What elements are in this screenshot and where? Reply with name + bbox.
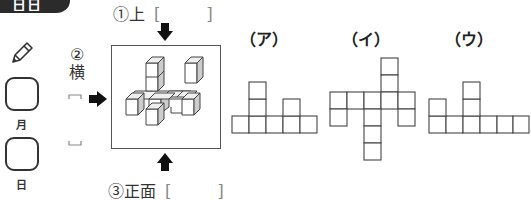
arrow-down-icon <box>157 23 173 41</box>
question-top-view: ①上 [ ] <box>113 1 213 25</box>
section-header-tab: 日日 <box>0 0 70 13</box>
day-label: 日 <box>16 176 27 192</box>
question-front-view: ③正面 [ ] <box>108 178 224 200</box>
arrow-up-icon <box>157 153 173 171</box>
option-a-label: （ア） <box>240 26 288 50</box>
answer-bracket-close: ] <box>218 182 224 200</box>
question-label: 横 <box>66 64 88 82</box>
month-input-box[interactable] <box>5 77 39 111</box>
question-label: 正面 <box>124 182 156 200</box>
day-input-box[interactable] <box>5 137 39 171</box>
answer-bracket-close: ] <box>207 5 213 24</box>
cube-figure <box>113 47 219 147</box>
option-u-label: （ウ） <box>445 26 493 50</box>
option-i-label: （イ） <box>342 26 390 50</box>
section-header-text: 日日 <box>12 0 42 11</box>
question-number: ③ <box>108 182 124 200</box>
option-u-view[interactable] <box>428 81 531 135</box>
answer-bracket-open: [ <box>165 182 171 200</box>
answer-bracket-side[interactable] <box>68 94 82 146</box>
option-a-view[interactable] <box>231 81 319 135</box>
month-label: 月 <box>16 116 27 132</box>
answer-bracket-open: [ <box>154 5 160 24</box>
question-label: 上 <box>129 5 145 24</box>
option-i-view[interactable] <box>329 57 417 163</box>
question-number: ① <box>113 5 129 24</box>
pencil-icon <box>9 40 35 66</box>
question-number: ② <box>66 46 88 64</box>
question-side-view: ② 横 <box>66 46 88 82</box>
arrow-right-icon <box>89 91 107 107</box>
